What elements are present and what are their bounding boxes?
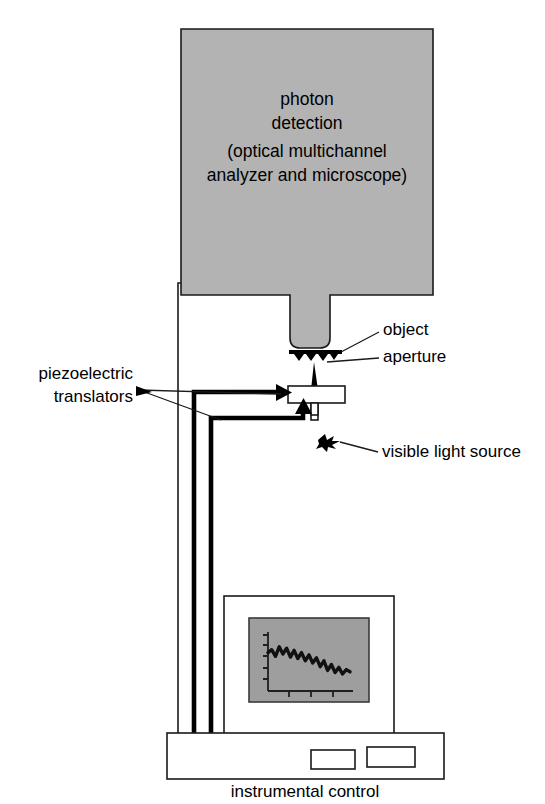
piezo-stage-block (288, 386, 345, 403)
detector-signal-cable (178, 283, 181, 733)
object-bar (289, 350, 342, 354)
object-assembly (289, 350, 342, 361)
light-source-starburst (316, 434, 340, 452)
schematic-svg: photon detection (optical multichannel a… (0, 0, 545, 804)
piezo-stage-post (311, 403, 318, 415)
piezo-stage (288, 386, 345, 415)
detector-label-line2: detection (271, 113, 342, 133)
aperture-label: aperture (383, 347, 446, 366)
detector-label-line3: (optical multichannel (227, 141, 387, 161)
monitor (224, 596, 394, 735)
photon-detection-unit: photon detection (optical multichannel a… (181, 29, 433, 348)
diagram-canvas: photon detection (optical multichannel a… (0, 0, 545, 804)
detector-housing-body (181, 29, 433, 348)
object-feature-icon (294, 354, 338, 361)
leader-piezo-2 (139, 390, 221, 420)
visible-light-source-icon (316, 434, 340, 452)
monitor-screen (249, 618, 369, 702)
instrumental-control-label: instrumental control (231, 782, 379, 801)
piezo-label-line1: piezoelectric (39, 364, 134, 383)
piezo-label-line2: translators (54, 387, 133, 406)
visible-light-source-label: visible light source (382, 442, 521, 461)
detector-label-line1: photon (280, 89, 334, 109)
object-label: object (383, 320, 429, 339)
leader-object (341, 332, 379, 352)
instrumental-control-base (167, 733, 444, 779)
base-panel-right (367, 747, 415, 767)
leader-light-source (340, 442, 378, 452)
base-panel-left (311, 750, 355, 769)
detector-label-line4: analyzer and microscope) (207, 165, 407, 185)
